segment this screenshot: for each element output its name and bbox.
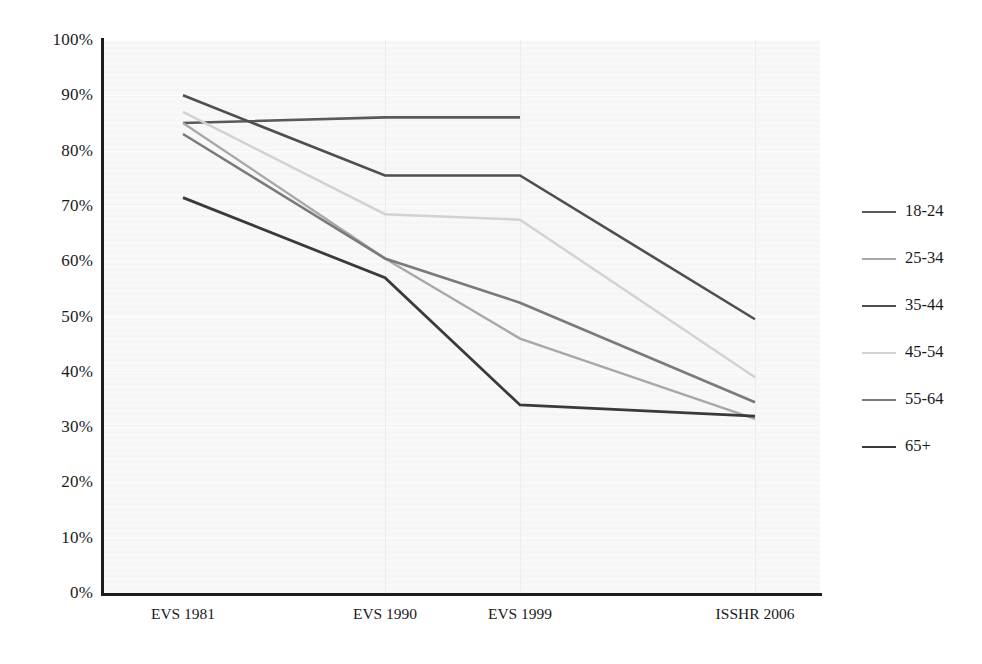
legend-item[interactable]: 18-24: [862, 188, 977, 235]
legend-line-swatch: [862, 399, 896, 401]
chart-legend: 18-2425-3435-4445-5455-6465+: [862, 188, 977, 470]
legend-line-swatch: [862, 352, 896, 354]
gridline-horizontal: [103, 372, 820, 373]
y-tick-label: 0%: [33, 583, 93, 603]
legend-item-label: 45-54: [905, 344, 944, 361]
x-tick-label: ISSHR 2006: [716, 605, 795, 623]
gridline-horizontal: [103, 206, 820, 207]
gridline-horizontal: [103, 40, 820, 41]
y-axis-line: [101, 38, 104, 595]
gridline-horizontal: [103, 538, 820, 539]
x-tick-label: EVS 1999: [488, 605, 552, 623]
legend-item[interactable]: 45-54: [862, 329, 977, 376]
legend-item-label: 65+: [905, 438, 931, 455]
y-tick-label: 50%: [33, 307, 93, 327]
legend-line-swatch: [862, 446, 896, 448]
x-tick-label: EVS 1990: [353, 605, 417, 623]
y-tick-label: 80%: [33, 141, 93, 161]
gridline-horizontal: [103, 427, 820, 428]
gridline-horizontal: [103, 151, 820, 152]
line-chart: 0%10%20%30%40%50%60%70%80%90%100% EVS 19…: [0, 0, 982, 664]
x-axis-line: [101, 593, 822, 596]
legend-item-label: 25-34: [905, 250, 944, 267]
plot-area: [103, 40, 820, 593]
gridline-horizontal: [103, 482, 820, 483]
gridline-horizontal: [103, 317, 820, 318]
legend-item[interactable]: 35-44: [862, 282, 977, 329]
y-tick-label: 100%: [33, 30, 93, 50]
legend-line-swatch: [862, 258, 896, 260]
gridline-vertical: [385, 40, 386, 593]
y-tick-label: 70%: [33, 196, 93, 216]
legend-item[interactable]: 55-64: [862, 376, 977, 423]
y-tick-label: 90%: [33, 85, 93, 105]
y-tick-label: 60%: [33, 251, 93, 271]
legend-line-swatch: [862, 211, 896, 213]
gridline-vertical: [755, 40, 756, 593]
x-tick-label: EVS 1981: [151, 605, 215, 623]
gridline-horizontal: [103, 95, 820, 96]
gridline-vertical: [520, 40, 521, 593]
legend-item[interactable]: 25-34: [862, 235, 977, 282]
y-tick-label: 40%: [33, 362, 93, 382]
y-tick-label: 10%: [33, 528, 93, 548]
y-tick-label: 20%: [33, 472, 93, 492]
legend-item-label: 55-64: [905, 391, 944, 408]
y-tick-label: 30%: [33, 417, 93, 437]
legend-line-swatch: [862, 305, 896, 307]
gridline-horizontal: [103, 261, 820, 262]
legend-item-label: 18-24: [905, 203, 944, 220]
legend-item[interactable]: 65+: [862, 423, 977, 470]
legend-item-label: 35-44: [905, 297, 944, 314]
